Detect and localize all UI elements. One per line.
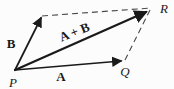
vector-label-a: A [56, 69, 66, 84]
vertex-label-q: Q [120, 64, 130, 79]
parallelogram-diagram: P Q R B A A + B [0, 0, 174, 89]
vector-label-b: B [7, 36, 16, 51]
vector-b-arrow [15, 18, 41, 70]
vertex-label-r: R [159, 1, 168, 16]
vector-addition-figure: P Q R B A A + B [0, 0, 174, 89]
vector-label-sum: A + B [57, 19, 92, 45]
vertex-label-p: P [8, 75, 17, 89]
dashed-edge-top [42, 8, 151, 16]
